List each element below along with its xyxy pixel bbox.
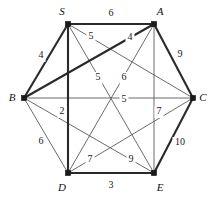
vertex-label-a: A xyxy=(156,5,164,17)
edge-weight-s-b: 4 xyxy=(39,49,44,60)
graph-vertex-s xyxy=(65,21,70,26)
edge-weight-a-d: 6 xyxy=(122,71,127,82)
edge-weight-d-e: 3 xyxy=(109,179,114,190)
vertex-label-e: E xyxy=(156,181,164,193)
edge-weight-a-c: 9 xyxy=(178,48,183,59)
graph-edge-s-b xyxy=(24,24,68,98)
edge-weight-a-b: 4 xyxy=(128,31,133,42)
graph-vertex-c xyxy=(190,95,195,100)
edge-weight-b-d: 6 xyxy=(39,135,44,146)
edges-layer xyxy=(24,24,193,173)
graph-vertex-e xyxy=(151,170,156,175)
edge-weight-s-c: 5 xyxy=(89,30,94,41)
graph-vertex-d xyxy=(65,170,70,175)
vertex-label-b: B xyxy=(9,91,16,103)
vertex-label-c: C xyxy=(199,91,207,103)
edge-weight-b-e: 9 xyxy=(129,153,134,164)
vertex-label-s: S xyxy=(59,5,65,17)
vertices-layer: SABCDE xyxy=(9,5,208,193)
edge-weight-c-e: 10 xyxy=(175,136,185,147)
edge-weight-a-e: 7 xyxy=(157,105,162,116)
graph-vertex-b xyxy=(21,95,26,100)
graph-vertex-a xyxy=(151,21,156,26)
vertex-label-d: D xyxy=(57,181,66,193)
weighted-graph-figure: SABCDE 6452549675697103 xyxy=(0,0,214,198)
edge-weight-b-c: 5 xyxy=(122,93,127,104)
edge-weight-s-d: 2 xyxy=(60,105,65,116)
graph-canvas: SABCDE 6452549675697103 xyxy=(0,0,214,198)
edge-weight-s-e: 5 xyxy=(96,71,101,82)
edge-weight-s-a: 6 xyxy=(109,7,114,18)
edge-weight-c-d: 7 xyxy=(88,153,93,164)
